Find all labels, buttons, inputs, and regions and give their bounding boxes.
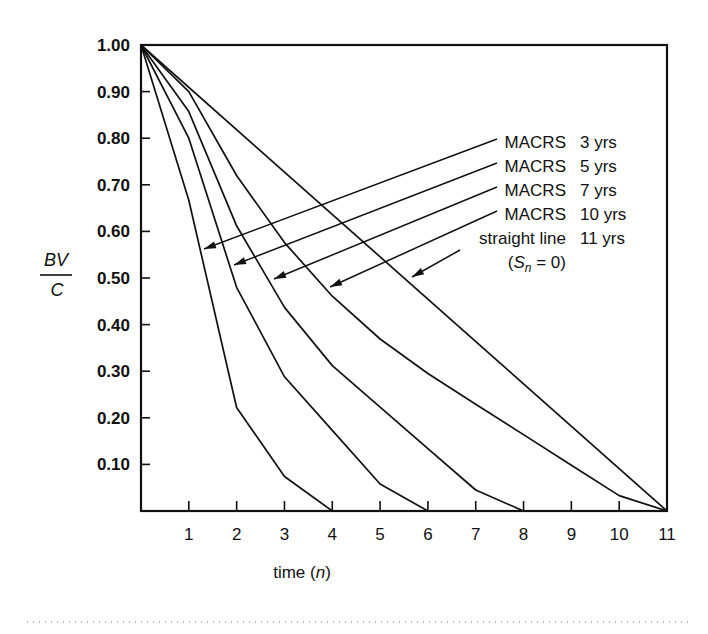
legend: MACRS3 yrsMACRS5 yrsMACRS7 yrsMACRS10 yr…: [479, 133, 626, 275]
legend-note: (Sn = 0): [508, 253, 566, 275]
arrowhead-icon: [330, 279, 342, 287]
legend-period: 10 yrs: [580, 205, 626, 224]
x-tick-label: 10: [610, 525, 629, 544]
arrowhead-icon: [234, 257, 246, 265]
y-tick-label: 0.10: [97, 455, 130, 474]
y-axis-label: BV C: [40, 250, 72, 300]
arrowhead-icon: [204, 241, 216, 249]
legend-label: MACRS: [505, 133, 566, 152]
legend-label: MACRS: [505, 205, 566, 224]
x-tick-label: 6: [423, 525, 432, 544]
x-tick-label: 11: [658, 525, 676, 544]
legend-label: MACRS: [505, 157, 566, 176]
x-tick-label: 3: [280, 525, 289, 544]
arrowhead-icon: [274, 271, 286, 279]
y-label-numerator: BV: [44, 250, 70, 270]
arrowhead-icon: [412, 268, 424, 277]
legend-arrow-2: [274, 187, 497, 279]
legend-label: MACRS: [505, 181, 566, 200]
y-tick-label: 0.70: [97, 176, 130, 195]
legend-period: 7 yrs: [580, 181, 617, 200]
x-tick-label: 9: [567, 525, 576, 544]
y-tick-label: 0.90: [97, 83, 130, 102]
legend-period: 5 yrs: [580, 157, 617, 176]
legend-period: 3 yrs: [580, 133, 617, 152]
y-tick-label: 0.80: [97, 129, 130, 148]
series-line-2: [141, 45, 524, 511]
y-tick-label: 0.50: [97, 269, 130, 288]
depreciation-chart: 0.100.200.300.400.500.600.700.800.901.00…: [0, 0, 708, 634]
legend-arrow-0: [204, 139, 497, 249]
x-tick-label: 5: [375, 525, 384, 544]
x-tick-label: 1: [184, 525, 193, 544]
x-tick-label: 8: [519, 525, 528, 544]
series-lines: [141, 45, 667, 511]
legend-label: straight line: [479, 229, 566, 248]
legend-arrows: [204, 139, 497, 287]
y-label-denominator: C: [51, 280, 65, 300]
series-line-4: [141, 45, 667, 511]
x-axis-label: time (n): [273, 563, 331, 582]
x-tick-label: 2: [232, 525, 241, 544]
x-tick-label: 4: [328, 525, 337, 544]
y-tick-label: 0.30: [97, 362, 130, 381]
series-line-0: [141, 45, 332, 511]
y-tick-label: 1.00: [97, 36, 130, 55]
x-axis-ticks: 1234567891011: [184, 501, 676, 544]
y-tick-label: 0.40: [97, 316, 130, 335]
legend-period: 11 yrs: [580, 229, 625, 248]
y-tick-label: 0.60: [97, 222, 130, 241]
y-tick-label: 0.20: [97, 409, 130, 428]
series-line-1: [141, 45, 428, 511]
x-tick-label: 7: [471, 525, 480, 544]
legend-arrow-1: [234, 163, 497, 265]
